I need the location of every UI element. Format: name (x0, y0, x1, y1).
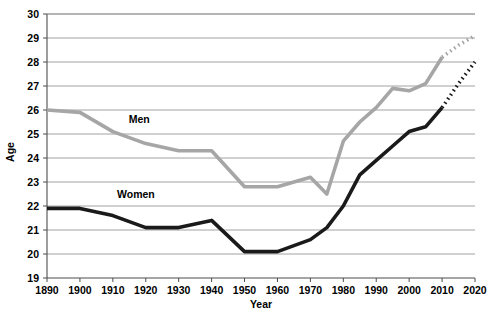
x-tick-label: 1970 (299, 284, 323, 296)
x-tick-label: 1940 (200, 284, 224, 296)
y-tick-label: 24 (27, 152, 39, 164)
x-tick-label: 1980 (332, 284, 356, 296)
chart-series (47, 36, 475, 252)
y-tick-label: 27 (27, 80, 39, 92)
y-tick-label: 26 (27, 104, 39, 116)
x-axis-title: Year (250, 298, 272, 310)
x-tick-label: 2020 (463, 284, 487, 296)
x-tick-label: 1930 (167, 284, 191, 296)
chart-axes (43, 14, 475, 282)
x-tick-label: 1920 (134, 284, 158, 296)
x-tick-label: 1910 (101, 284, 125, 296)
x-tick-label: 1900 (68, 284, 92, 296)
series-projection-men (442, 36, 475, 58)
chart-y-tick-labels: 192021222324252627282930 (27, 8, 39, 284)
series-label-men: Men (129, 113, 150, 125)
marriage-age-line-chart: 192021222324252627282930 189019001910192… (0, 0, 491, 319)
y-axis-title: Age (4, 142, 16, 162)
x-tick-label: 1890 (35, 284, 59, 296)
y-tick-label: 28 (27, 56, 39, 68)
y-tick-label: 20 (27, 248, 39, 260)
y-tick-label: 19 (27, 272, 39, 284)
x-tick-label: 1960 (266, 284, 290, 296)
x-tick-label: 1990 (365, 284, 389, 296)
chart-page: 192021222324252627282930 189019001910192… (0, 0, 491, 319)
chart-series-labels: MenWomen (117, 113, 155, 199)
y-tick-label: 30 (27, 8, 39, 20)
x-tick-label: 2010 (430, 284, 454, 296)
x-tick-label: 1950 (233, 284, 257, 296)
series-label-women: Women (117, 188, 155, 200)
y-tick-label: 25 (27, 128, 39, 140)
series-projection-women (442, 62, 475, 108)
y-tick-label: 21 (27, 224, 39, 236)
series-line-men (47, 57, 442, 194)
x-tick-label: 2000 (397, 284, 421, 296)
chart-gridlines (47, 14, 475, 254)
y-tick-label: 22 (27, 200, 39, 212)
y-tick-label: 29 (27, 32, 39, 44)
y-tick-label: 23 (27, 176, 39, 188)
chart-x-tick-labels: 1890190019101920193019401950196019701980… (35, 284, 487, 296)
